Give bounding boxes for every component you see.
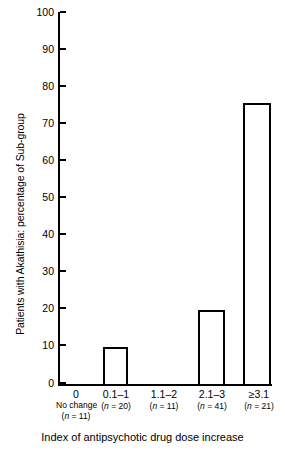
y-tick-mark-80	[60, 85, 66, 87]
y-tick-50: 50	[0, 192, 54, 202]
y-tick-40: 40	[0, 229, 54, 239]
y-tick-mark-50	[60, 196, 66, 198]
x-category-label-ge3.1: ≥3.1	[236, 389, 282, 400]
y-tick-mark-10	[60, 344, 66, 346]
x-axis-line	[58, 384, 272, 386]
x-category-1.1-2: 1.1–2 (n = 11)	[141, 389, 187, 411]
y-tick-70: 70	[0, 118, 54, 128]
y-tick-80: 80	[0, 81, 54, 91]
y-tick-mark-60	[60, 159, 66, 161]
x-axis-title: Index of antipsychotic drug dose increas…	[0, 431, 285, 443]
y-tick-30: 30	[0, 266, 54, 276]
y-tick-mark-20	[60, 307, 66, 309]
y-tick-label-30: 30	[24, 266, 54, 276]
x-group-size-0.1-1: (n = 20)	[93, 401, 139, 411]
y-tick-label-90: 90	[24, 44, 54, 54]
bar-2.1-3	[198, 310, 225, 384]
y-tick-0: 0	[0, 378, 54, 388]
y-tick-label-50: 50	[24, 192, 54, 202]
y-tick-label-20: 20	[24, 303, 54, 313]
chart-figure: Patients with Akathisia: percentage of S…	[0, 0, 285, 455]
x-category-label-0.1-1: 0.1–1	[93, 389, 139, 400]
y-tick-label-10: 10	[24, 340, 54, 350]
y-tick-100: 100	[0, 7, 54, 17]
y-axis-title: Patients with Akathisia: percentage of S…	[14, 64, 26, 384]
x-category-label-1.1-2: 1.1–2	[141, 389, 187, 400]
y-axis-line	[58, 12, 60, 386]
y-tick-mark-30	[60, 270, 66, 272]
y-tick-90: 90	[0, 44, 54, 54]
y-tick-label-60: 60	[24, 155, 54, 165]
x-group-size-0: (n = 11)	[54, 411, 98, 421]
x-group-size-1.1-2: (n = 11)	[141, 401, 187, 411]
y-tick-60: 60	[0, 155, 54, 165]
x-group-size-2.1-3: (n = 41)	[189, 401, 235, 411]
y-tick-label-40: 40	[24, 229, 54, 239]
y-tick-mark-90	[60, 48, 66, 50]
x-category-ge3.1: ≥3.1 (n = 21)	[236, 389, 282, 411]
y-tick-label-80: 80	[24, 81, 54, 91]
bar-0.1-1	[103, 347, 128, 384]
y-tick-mark-100	[60, 11, 66, 13]
x-category-label-2.1-3: 2.1–3	[189, 389, 235, 400]
x-category-0: 0 No change (n = 11)	[54, 389, 98, 421]
x-category-label-0: 0	[54, 389, 98, 400]
y-tick-mark-70	[60, 122, 66, 124]
y-tick-mark-40	[60, 233, 66, 235]
y-tick-label-0: 0	[24, 378, 54, 388]
bar-ge3.1	[243, 103, 271, 384]
x-group-size-ge3.1: (n = 21)	[236, 401, 282, 411]
y-tick-20: 20	[0, 303, 54, 313]
y-tick-10: 10	[0, 340, 54, 350]
y-tick-label-70: 70	[24, 118, 54, 128]
x-category-2.1-3: 2.1–3 (n = 41)	[189, 389, 235, 411]
x-category-sublabel-0: No change	[54, 400, 98, 410]
x-category-0.1-1: 0.1–1 (n = 20)	[93, 389, 139, 411]
y-tick-label-100: 100	[24, 7, 54, 17]
